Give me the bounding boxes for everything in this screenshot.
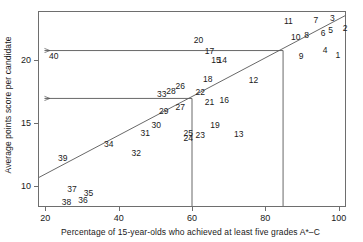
data-point-label: 13 [234,130,243,139]
data-point-label: 19 [210,121,219,130]
y-axis-title: Average points score per candidate [0,0,16,210]
scatter-chart: Average points score per candidate 10152… [0,0,363,242]
data-point-label: 40 [49,52,58,61]
y-tick-label: 15 [9,118,31,128]
data-point-label: 20 [194,35,203,44]
data-point-label: 4 [323,45,328,54]
data-point-label: 37 [67,185,76,194]
data-point-label: 22 [196,88,205,97]
data-point-label: 8 [304,30,309,39]
x-tick-mark [45,207,46,211]
data-point-label: 29 [159,107,168,116]
data-point-label: 6 [321,29,326,38]
data-point-label: 10 [291,33,300,42]
data-point-label: 39 [58,153,67,162]
data-point-label: 30 [152,121,161,130]
data-point-label: 15 [211,55,220,64]
data-point-label: 23 [196,131,205,140]
x-tick-mark [192,207,193,211]
x-tick-mark [265,207,266,211]
data-point-label: 12 [249,76,258,85]
data-point-label: 21 [205,98,214,107]
data-point-label: 7 [313,15,318,24]
data-point-label: 11 [284,17,293,26]
x-axis-title: Percentage of 15-year-olds who achieved … [18,227,363,237]
plot-area: 1234567891011121314151617181920212223242… [38,11,346,207]
data-point-label: 16 [219,96,228,105]
data-point-label: 38 [62,197,71,206]
x-tick-label: 60 [179,213,205,223]
data-point-label: 1 [335,50,340,59]
y-tick-label: 20 [9,55,31,65]
x-tick-mark [339,207,340,211]
data-point-label: 3 [330,14,335,23]
x-tick-label: 40 [106,213,132,223]
data-point-label: 2 [343,24,348,33]
data-point-label: 31 [141,128,150,137]
data-point-label: 33 [157,89,166,98]
data-point-label: 17 [205,47,214,56]
x-tick-label: 80 [252,213,278,223]
x-tick-label: 100 [326,213,352,223]
x-tick-label: 20 [32,213,58,223]
data-point-label: 9 [299,52,304,61]
data-point-label: 34 [104,140,113,149]
data-point-label: 5 [328,25,333,34]
x-tick-mark [119,207,120,211]
data-point-label: 36 [78,196,87,205]
data-point-label: 28 [166,87,175,96]
data-point-label: 27 [175,103,184,112]
data-point-label: 18 [203,74,212,83]
data-point-label: 25 [183,128,192,137]
data-point-label: 32 [131,148,140,157]
data-point-label: 26 [175,82,184,91]
y-tick-label: 10 [9,181,31,191]
